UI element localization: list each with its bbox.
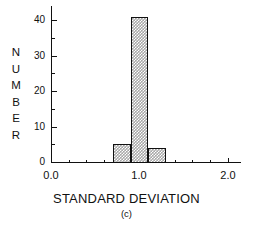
histogram-bar [148,148,166,163]
x-tick-major [51,158,52,163]
panel-label: (c) [0,209,253,219]
y-tick-label: 0 [23,157,45,167]
x-tick-minor [192,160,193,163]
x-axis-title: STANDARD DEVIATION [0,192,253,206]
y-tick-label: 30 [23,51,45,61]
y-tick-major [52,127,57,128]
y-tick-major [52,20,57,21]
histogram-figure: N U M B E R 0102030400.01.02.0 STANDARD … [0,0,253,226]
x-tick-label: 0.0 [31,170,71,181]
x-tick-minor [210,160,211,163]
x-tick-label: 2.0 [208,170,248,181]
x-tick-major [228,158,229,163]
histogram-bar [113,144,131,163]
y-tick-major [52,162,57,163]
y-tick-minor [52,73,55,74]
y-axis-title-letter: U [6,61,26,78]
histogram-bar [131,17,149,163]
x-tick-label: 1.0 [119,170,159,181]
x-tick-minor [175,160,176,163]
x-tick-minor [104,160,105,163]
y-tick-minor [52,109,55,110]
y-tick-label: 40 [23,15,45,25]
y-tick-minor [52,38,55,39]
x-tick-minor [69,160,70,163]
y-tick-minor [52,144,55,145]
y-tick-label: 10 [23,122,45,132]
y-tick-major [52,91,57,92]
plot-area: 0102030400.01.02.0 [51,6,241,163]
y-tick-major [52,56,57,57]
x-tick-minor [86,160,87,163]
y-axis-line [51,6,52,163]
y-tick-label: 20 [23,86,45,96]
